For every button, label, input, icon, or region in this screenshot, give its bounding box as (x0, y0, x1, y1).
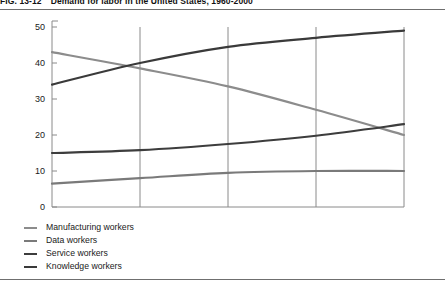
x-tick-label: 1960 (42, 212, 62, 214)
figure-caption: FIG. 13-12Demand for labor in the United… (0, 0, 445, 8)
legend-item: Data workers (24, 234, 134, 247)
legend-label-service-workers: Service workers (46, 247, 108, 260)
x-tick-label: 1980 (218, 212, 238, 214)
legend-swatch-manufacturing-workers (24, 227, 37, 229)
y-tick-label: 0 (40, 202, 45, 212)
y-tick-label: 10 (35, 166, 45, 176)
legend-label-data-workers: Data workers (46, 234, 97, 247)
legend-item: Service workers (24, 247, 134, 260)
chart-legend: Manufacturing workers Data workers Servi… (24, 221, 134, 273)
y-tick-label: 20 (35, 130, 45, 140)
chart-plot-area: 01020304050 19601970198019902000(estimat… (0, 14, 445, 214)
legend-label-manufacturing-workers: Manufacturing workers (46, 221, 134, 234)
legend-swatch-data-workers (24, 240, 37, 242)
legend-swatch-knowledge-workers (24, 266, 37, 268)
legend-swatch-service-workers (24, 253, 37, 255)
y-tick-label: 40 (35, 58, 45, 68)
y-tick-label: 30 (35, 94, 45, 104)
line-chart: 01020304050 19601970198019902000(estimat… (0, 14, 445, 214)
figure-container: FIG. 13-12Demand for labor in the United… (0, 0, 445, 288)
y-tick-label: 50 (35, 22, 45, 32)
x-tick-label: 1970 (130, 212, 150, 214)
figure-number: FIG. 13-12 (0, 0, 42, 6)
x-tick-label: 1990 (306, 212, 326, 214)
y-axis-labels: 01020304050 (35, 22, 45, 212)
top-divider (0, 9, 445, 10)
bottom-divider (0, 279, 445, 280)
figure-caption-text: Demand for labor in the United States, 1… (51, 0, 253, 6)
legend-item: Knowledge workers (24, 260, 134, 273)
legend-label-knowledge-workers: Knowledge workers (46, 260, 122, 273)
legend-item: Manufacturing workers (24, 221, 134, 234)
x-tick-label: 2000 (394, 212, 414, 214)
x-axis-labels: 19601970198019902000(estimated) (42, 212, 424, 214)
